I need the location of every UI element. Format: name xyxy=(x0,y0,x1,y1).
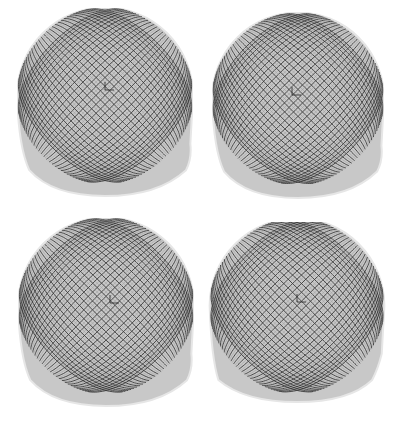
mesh-panel-bottom-right xyxy=(208,222,386,404)
mesh-panel-top-left xyxy=(17,8,193,198)
head-mesh-icon xyxy=(17,8,193,198)
head-mesh-icon xyxy=(18,218,194,408)
mesh-panel-top-right xyxy=(212,12,384,200)
head-mesh-icon xyxy=(212,12,384,200)
mesh-panel-bottom-left xyxy=(18,218,194,408)
head-mesh-icon xyxy=(208,222,386,404)
